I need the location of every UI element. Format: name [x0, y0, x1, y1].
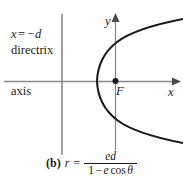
y-axis-label: y: [105, 15, 111, 28]
directrix-equation-variable: x: [11, 27, 17, 41]
directrix-equation-operator: =: [17, 27, 27, 41]
caption-numerator: ed: [101, 150, 120, 163]
conic-upper-branch: [97, 19, 183, 81]
conic-section-figure: x=−d directrix axis y x F (b) r = ed 1−e…: [0, 0, 183, 182]
directrix-equation-label: x=−d: [11, 28, 41, 41]
directrix-equation-value: −d: [27, 27, 42, 41]
directrix-text-label: directrix: [11, 44, 53, 57]
caption-denominator-one: 1: [88, 164, 94, 176]
x-axis-label: x: [168, 86, 174, 99]
caption-denominator-cos: cos: [108, 164, 125, 176]
caption-equals-sign: =: [73, 156, 80, 171]
caption-denominator-minus: −: [94, 164, 104, 176]
caption-denominator-theta: θ: [126, 164, 133, 176]
caption-variable-r: r: [65, 156, 70, 171]
caption-denominator: 1−ecosθ: [84, 164, 137, 177]
focus-label: F: [116, 85, 124, 98]
y-axis-arrowhead: [112, 13, 120, 22]
axis-text-label: axis: [11, 85, 31, 98]
figure-caption: (b) r = ed 1−ecosθ: [0, 150, 183, 176]
caption-part-label: (b): [46, 156, 61, 171]
caption-fraction: ed 1−ecosθ: [84, 150, 137, 176]
